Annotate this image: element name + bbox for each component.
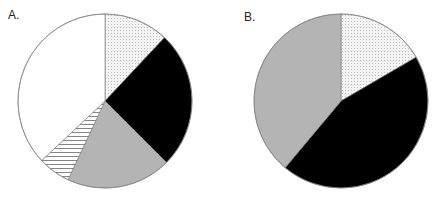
pie-chart-b	[254, 14, 428, 188]
pie-chart-a	[18, 14, 192, 188]
pie-charts	[0, 0, 432, 198]
